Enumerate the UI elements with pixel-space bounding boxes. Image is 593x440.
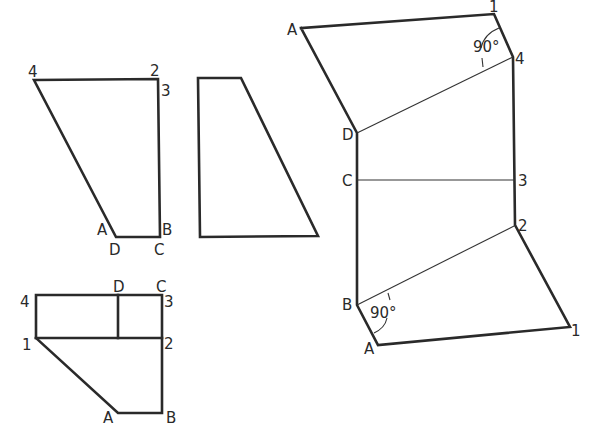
label-B: B (342, 296, 352, 314)
side-elevation-view (198, 78, 318, 237)
label-1: 1 (22, 336, 32, 354)
development-view: 90° 90° A 1 4 D C 3 2 B A 1 (287, 0, 581, 358)
label-4: 4 (20, 293, 30, 311)
angle-arrow-bottom (388, 293, 390, 300)
label-3: 3 (161, 82, 171, 100)
label-B: B (162, 221, 172, 239)
angle-label-top: 90° (473, 38, 500, 56)
label-A-bottom: A (364, 340, 375, 358)
label-1-bottom: 1 (571, 322, 581, 340)
label-3: 3 (518, 172, 528, 190)
label-2: 2 (164, 335, 174, 353)
label-A: A (103, 409, 114, 427)
label-1-top: 1 (489, 0, 499, 16)
angle-arrow-top (482, 58, 483, 67)
side-elevation-outline (198, 78, 318, 237)
label-2: 2 (518, 217, 528, 235)
label-D: D (109, 241, 121, 259)
fold-line-B-2 (357, 225, 516, 305)
plan-outline (36, 295, 162, 413)
label-C: C (154, 241, 164, 259)
technical-drawing: 4 2 3 A B D C 4 1 D C 3 2 A B 90° (0, 0, 593, 440)
label-B: B (166, 409, 176, 427)
label-D: D (342, 126, 354, 144)
front-elevation-view: 4 2 3 A B D C (28, 62, 172, 259)
label-2: 2 (150, 62, 160, 80)
label-A: A (97, 221, 108, 239)
label-D: D (113, 278, 125, 296)
label-4: 4 (28, 63, 38, 81)
plan-view: 4 1 D C 3 2 A B (20, 278, 176, 427)
angle-label-bottom: 90° (370, 304, 397, 322)
front-elevation-outline (34, 79, 160, 237)
label-4: 4 (515, 50, 525, 68)
label-3: 3 (164, 293, 174, 311)
label-A-top: A (287, 21, 298, 39)
fold-line-D-4 (357, 57, 513, 133)
label-C: C (342, 172, 352, 190)
